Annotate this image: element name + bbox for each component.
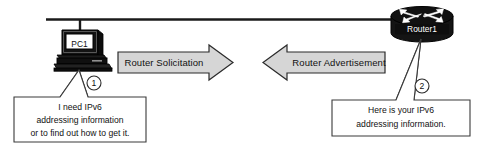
pc1-device: PC1 [54,30,112,71]
pc1-label: PC1 [71,39,88,49]
router1-callout-line-2: addressing information. [356,119,445,129]
router-solicitation-arrow: Router Solicitation [118,45,233,80]
router1-label: Router1 [407,24,437,34]
pc1-callout: I need IPv6 addressing information or to… [14,70,146,142]
advertisement-arrow-label: Router Advertisement [292,57,386,68]
network-diagram: PC1 Router1 [0,0,485,152]
step-marker-1: 1 [87,76,101,90]
step-1-label: 1 [92,78,97,88]
desktop-computer-icon [54,30,112,71]
pc1-callout-line-1: I need IPv6 [58,102,102,112]
pc1-callout-line-2: addressing information [37,115,124,125]
pc1-callout-line-3: or to find out how to get it. [31,128,130,138]
step-2-label: 2 [420,81,425,91]
drive-slot [92,60,102,62]
monitor-side [98,30,103,57]
router1-device: Router1 [391,7,453,43]
diagram-canvas: PC1 Router1 [0,0,485,152]
solicitation-arrow-label: Router Solicitation [125,57,204,68]
router1-callout-line-1: Here is your IPv6 [368,105,434,115]
router-advertisement-arrow: Router Advertisement [263,45,386,80]
keyboard-front [54,68,112,71]
step-marker-2: 2 [415,79,429,93]
